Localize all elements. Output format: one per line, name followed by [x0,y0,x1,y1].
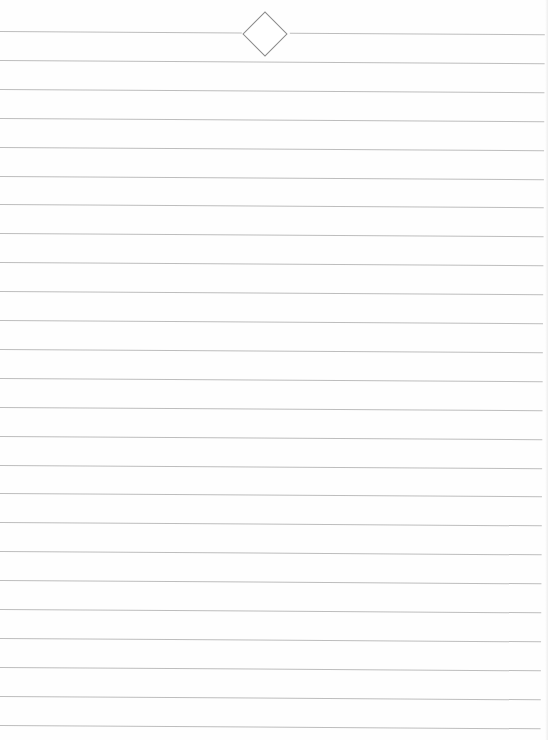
ruled-line [0,60,545,64]
lined-paper-page [0,0,548,740]
ruled-lines [0,0,548,740]
ruled-line [0,638,541,642]
ruled-line [0,609,541,613]
ruled-line [0,176,544,180]
ruled-line [0,465,542,469]
ruled-line [0,407,543,411]
ruled-line [0,436,542,440]
ruled-line [0,89,544,93]
ruled-line [0,31,242,33]
ruled-line [0,262,543,266]
ruled-line [0,667,541,671]
ruled-line [0,291,543,295]
ruled-line [0,522,542,526]
ruled-line [0,551,542,555]
ruled-line [0,233,544,237]
ruled-line [0,378,543,382]
ruled-line [0,204,544,208]
ruled-line [0,320,543,324]
ruled-line [0,349,543,353]
ruled-line [0,696,541,700]
ruled-line [0,147,544,151]
ruled-line [290,33,545,36]
ruled-line [0,493,542,497]
ruled-line [0,725,541,729]
ruled-line [0,580,541,584]
ruled-line [0,118,544,122]
